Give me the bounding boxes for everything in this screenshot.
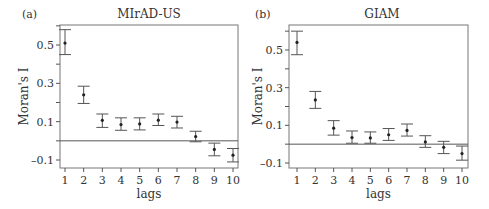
point-marker bbox=[101, 119, 104, 122]
data-point-lag-10 bbox=[456, 146, 468, 160]
point-marker bbox=[369, 136, 372, 139]
point-marker bbox=[231, 154, 234, 157]
x-tick-label: 9 bbox=[211, 174, 218, 187]
plot-frame bbox=[289, 25, 468, 168]
x-tick-label: 5 bbox=[367, 174, 374, 187]
data-point-lag-4 bbox=[115, 118, 127, 130]
x-tick-label: 10 bbox=[226, 174, 240, 187]
x-tick-label: 3 bbox=[99, 174, 106, 187]
point-marker bbox=[175, 120, 178, 123]
data-point-lag-3 bbox=[328, 121, 340, 136]
data-point-lag-1 bbox=[291, 31, 303, 55]
point-marker bbox=[314, 98, 317, 101]
data-point-lag-1 bbox=[59, 30, 71, 55]
data-point-lag-9 bbox=[208, 143, 220, 156]
point-marker bbox=[213, 148, 216, 151]
moran-i-chart-figure: (a)MIrAD-US–0.10.10.30.5Moran's I1234567… bbox=[0, 0, 489, 209]
x-tick-label: 1 bbox=[294, 174, 301, 187]
data-point-lag-7 bbox=[401, 124, 413, 136]
point-marker bbox=[460, 152, 463, 155]
plot-frame bbox=[60, 25, 238, 168]
data-point-lag-7 bbox=[171, 116, 183, 128]
y-tick-label: 0.1 bbox=[266, 119, 284, 132]
x-tick-label: 6 bbox=[385, 174, 392, 187]
x-axis-label: lags bbox=[366, 187, 391, 201]
data-point-lag-9 bbox=[438, 141, 450, 153]
x-tick-label: 10 bbox=[455, 174, 469, 187]
y-tick-label: 0.1 bbox=[37, 116, 55, 129]
data-point-lag-5 bbox=[134, 118, 146, 130]
chart-title: MIrAD-US bbox=[117, 7, 181, 21]
y-tick-label: 0.5 bbox=[266, 44, 284, 57]
chart-title: GIAM bbox=[364, 7, 399, 21]
data-point-lag-5 bbox=[364, 132, 376, 143]
point-marker bbox=[387, 133, 390, 136]
point-marker bbox=[442, 146, 445, 149]
point-marker bbox=[194, 135, 197, 138]
data-point-lag-2 bbox=[78, 86, 90, 103]
x-tick-label: 6 bbox=[155, 174, 162, 187]
point-marker bbox=[295, 41, 298, 44]
data-point-lag-6 bbox=[383, 129, 395, 141]
panel-b-giam: (b)GIAM–0.10.10.30.5Moran's I12345678910… bbox=[251, 7, 469, 201]
x-tick-label: 2 bbox=[312, 174, 319, 187]
data-point-lag-6 bbox=[152, 114, 164, 126]
point-marker bbox=[82, 93, 85, 96]
panel-a-mirad-us: (a)MIrAD-US–0.10.10.30.5Moran's I1234567… bbox=[17, 7, 240, 201]
data-point-lag-4 bbox=[346, 131, 358, 143]
panel-label: (a) bbox=[22, 8, 37, 21]
x-tick-label: 2 bbox=[80, 174, 87, 187]
data-point-lag-2 bbox=[309, 91, 321, 108]
x-axis-label: lags bbox=[137, 187, 162, 201]
y-tick-label: 0.5 bbox=[37, 39, 55, 52]
y-axis-label: Moran's I bbox=[17, 67, 31, 125]
x-tick-label: 4 bbox=[349, 174, 356, 187]
x-tick-label: 4 bbox=[118, 174, 125, 187]
point-marker bbox=[332, 127, 335, 130]
x-tick-label: 3 bbox=[330, 174, 337, 187]
x-tick-label: 7 bbox=[174, 174, 181, 187]
panel-label: (b) bbox=[255, 8, 271, 21]
x-tick-label: 8 bbox=[192, 174, 199, 187]
y-tick-label: –0.1 bbox=[31, 154, 54, 167]
y-tick-label: –0.1 bbox=[260, 157, 283, 170]
point-marker bbox=[157, 119, 160, 122]
y-tick-label: 0.3 bbox=[266, 82, 284, 95]
point-marker bbox=[350, 136, 353, 139]
x-tick-label: 7 bbox=[404, 174, 411, 187]
data-point-lag-3 bbox=[96, 114, 108, 127]
data-point-lag-10 bbox=[227, 149, 239, 162]
point-marker bbox=[63, 41, 66, 44]
point-marker bbox=[138, 122, 141, 125]
x-tick-label: 5 bbox=[136, 174, 143, 187]
data-point-lag-8 bbox=[419, 136, 431, 148]
point-marker bbox=[424, 140, 427, 143]
y-axis-label: Moran's I bbox=[251, 67, 265, 125]
x-tick-label: 1 bbox=[62, 174, 69, 187]
data-point-lag-8 bbox=[190, 131, 202, 142]
y-tick-label: 0.3 bbox=[37, 77, 55, 90]
x-tick-label: 9 bbox=[440, 174, 447, 187]
point-marker bbox=[119, 123, 122, 126]
x-tick-label: 8 bbox=[422, 174, 429, 187]
point-marker bbox=[405, 129, 408, 132]
